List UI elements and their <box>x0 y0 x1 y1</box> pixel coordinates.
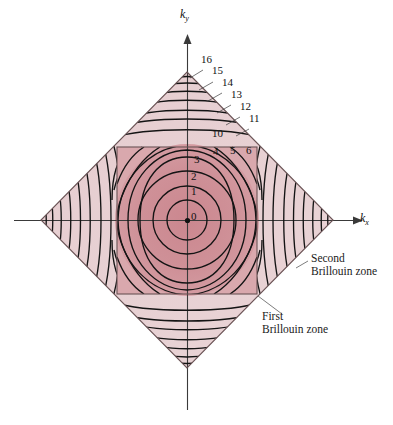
second-zone-callout-line1: Second <box>311 252 377 265</box>
contour-label-4: 4 <box>213 145 219 158</box>
first-zone-callout-line2: Brillouin zone <box>262 323 328 336</box>
origin-point <box>185 218 190 223</box>
contour-label-14: 14 <box>222 76 233 89</box>
ky-axis-label-sub: y <box>185 14 189 23</box>
contour-label-5: 5 <box>230 144 236 157</box>
contour-label-10: 10 <box>212 127 223 140</box>
kx-axis-label: kx <box>360 212 369 228</box>
kx-axis-label-sub: x <box>365 218 369 227</box>
contour-label-16: 16 <box>201 53 212 66</box>
contour-label-12: 12 <box>240 100 251 113</box>
contour-label-1: 1 <box>191 185 197 198</box>
contour-label-3: 3 <box>194 153 200 166</box>
contour-label-13: 13 <box>231 88 242 101</box>
second-zone-callout-line2: Brillouin zone <box>311 265 377 278</box>
ky-axis-label: ky <box>180 8 189 24</box>
contour-label-2: 2 <box>191 170 197 183</box>
contour-label-6: 6 <box>246 144 252 157</box>
first-zone-callout-line1: First <box>262 310 328 323</box>
contour-label-15: 15 <box>212 64 223 77</box>
contour-label-11: 11 <box>249 112 260 125</box>
first-brillouin-zone-callout: First Brillouin zone <box>262 310 328 336</box>
contour-label-0: 0 <box>191 210 197 223</box>
second-brillouin-zone-callout: Second Brillouin zone <box>311 252 377 278</box>
